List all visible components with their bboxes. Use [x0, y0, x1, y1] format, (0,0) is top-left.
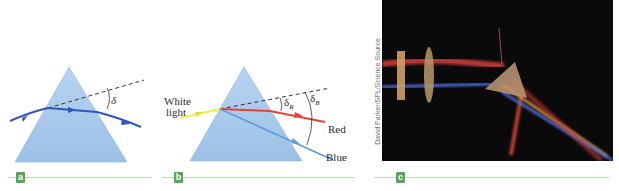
prism-deviation-diagram	[0, 0, 160, 191]
deviation-red-label: δR	[284, 96, 293, 113]
panel-tag-c: c	[396, 172, 405, 183]
panel-tag-b: b	[174, 172, 183, 183]
deviation-arc	[107, 88, 110, 109]
white-light-label-line2: light	[166, 106, 186, 118]
panel-c: David Parker/SPL/Science Source c	[370, 0, 619, 191]
blue-label: Blue	[326, 151, 347, 163]
panel-tag-a: a	[16, 172, 25, 183]
caption-rule-b	[162, 177, 355, 178]
prism-photo	[382, 0, 613, 161]
deviation-red-arc	[280, 98, 282, 111]
panel-a: δ a	[0, 0, 160, 191]
panel-b: White light δR δB Red Blue b	[160, 0, 370, 191]
caption-rule-c	[374, 177, 609, 178]
prism-photo-graphic	[382, 0, 613, 161]
caption-rule-a	[8, 177, 152, 178]
deviation-label: δ	[111, 94, 116, 106]
photo-credit: David Parker/SPL/Science Source	[374, 27, 381, 157]
prism-a	[15, 67, 127, 162]
red-label: Red	[328, 123, 346, 135]
deviation-blue-label: δB	[310, 92, 319, 109]
